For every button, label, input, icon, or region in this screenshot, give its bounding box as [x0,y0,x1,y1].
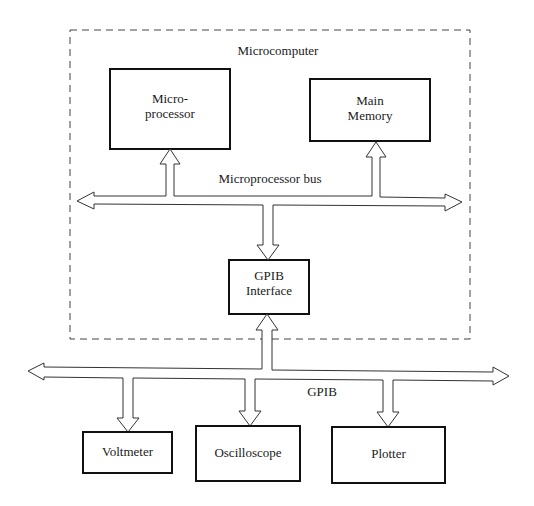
gpib-interface-label-line2: Interface [229,284,309,299]
gpib-bus-arrow [28,314,509,432]
microprocessor-label-line1: Micro- [110,92,230,107]
oscilloscope-label: Oscilloscope [196,446,300,461]
gpib-interface-label-line1: GPIB [229,269,309,284]
main-memory-label: Main Memory [310,94,430,124]
microcomputer-label: Microcomputer [228,44,328,59]
main-memory-label-line2: Memory [310,109,430,124]
plotter-label: Plotter [332,447,445,462]
microprocessor-bus-label: Microprocessor bus [205,172,335,187]
gpib-interface-label: GPIB Interface [229,269,309,299]
main-memory-label-line1: Main [310,94,430,109]
microprocessor-bus-arrow [77,142,462,260]
gpib-system-diagram: Microcomputer Micro- processor Main Memo… [0,0,534,506]
gpib-bus-label: GPIB [302,385,342,400]
microprocessor-label-line2: processor [110,107,230,122]
microprocessor-label: Micro- processor [110,92,230,122]
voltmeter-label: Voltmeter [83,445,172,460]
